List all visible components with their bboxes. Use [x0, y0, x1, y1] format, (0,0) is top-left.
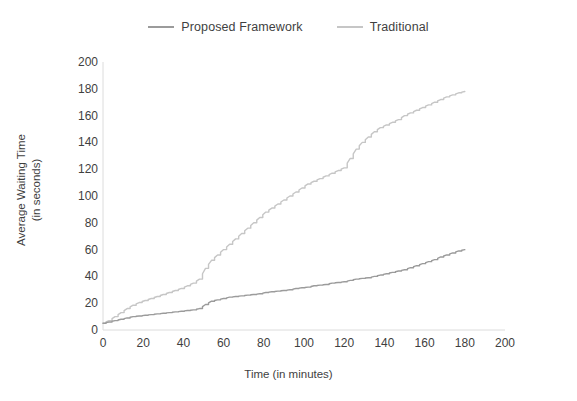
plot-area — [0, 0, 577, 401]
line-series-proposed-framework — [103, 250, 465, 324]
line-series-traditional — [103, 91, 465, 323]
chart-container: Proposed Framework Traditional Average W… — [0, 0, 577, 401]
x-axis-title: Time (in minutes) — [0, 368, 577, 380]
